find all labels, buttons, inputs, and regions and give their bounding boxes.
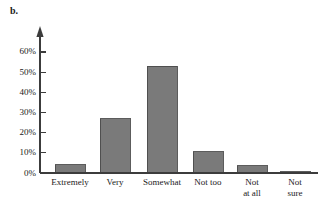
y-axis-tick-label: 40% xyxy=(6,88,36,97)
y-axis-tick-label: 20% xyxy=(6,128,36,137)
y-axis-arrowhead-icon xyxy=(36,26,43,37)
bars-group xyxy=(55,66,310,173)
bar xyxy=(193,152,223,173)
chart-figure: b. 0%10%20%30%40%50%60% ExtremelyVerySom… xyxy=(0,0,322,212)
y-axis-tick-label: 0% xyxy=(6,169,36,178)
x-axis-tick-label: Not sure xyxy=(266,177,322,198)
bar xyxy=(55,165,85,173)
y-axis-tick-label: 30% xyxy=(6,108,36,117)
bar xyxy=(100,119,130,173)
bar xyxy=(147,66,177,173)
bar xyxy=(237,166,267,173)
y-axis-ticks-group xyxy=(40,52,46,173)
y-axis-tick-label: 10% xyxy=(6,148,36,157)
y-axis-tick-label: 50% xyxy=(6,68,36,77)
y-axis-tick-label: 60% xyxy=(6,47,36,56)
